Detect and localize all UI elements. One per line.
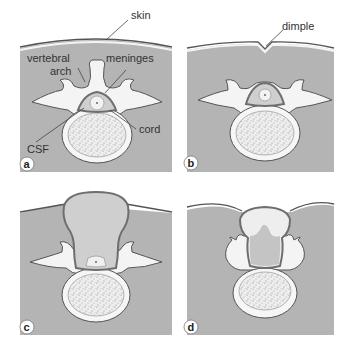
diagram-canvas: skin vertebral arch meninges cord CSF a … [0,0,348,359]
panel-c: c [20,192,172,335]
leader-dimple [266,30,283,46]
panel-letter-a: a [24,158,31,170]
marrow [68,274,124,316]
label-csf: CSF [27,143,49,155]
label-vertebral-arch-1: vertebral [27,52,70,64]
panel-b: dimple b [184,20,334,172]
panel-a: skin vertebral arch meninges cord CSF a [20,9,172,172]
label-meninges: meninges [106,52,154,64]
panel-letter-d: d [188,321,195,333]
marrow [239,272,291,310]
panel-letter-b: b [188,157,195,169]
marrow [236,111,294,155]
label-vertebral-arch-2: arch [50,65,71,77]
leader-skin [106,20,128,40]
panel-d: d [184,203,334,335]
panel-letter-c: c [24,321,30,333]
label-cord: cord [139,123,160,135]
marrow [68,113,126,157]
label-skin: skin [131,9,151,21]
label-dimple: dimple [282,20,314,32]
